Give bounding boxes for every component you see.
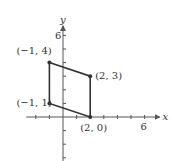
coordinate-plane: xy66 (−1, 4)(2, 3)(2, 0)(−1, 1) [0,0,171,161]
parallelogram-outline [49,63,90,117]
x-tick-label-6: 6 [141,121,147,132]
vertex-point [47,61,51,65]
vertex-label: (−1, 4) [16,45,51,56]
vertex-label: (2, 0) [80,122,107,133]
x-axis-label: x [163,111,169,122]
axes: xy66 [26,14,168,161]
y-axis-label: y [59,14,66,25]
vertex-label: (−1, 1) [16,97,51,108]
y-tick-label-6: 6 [55,30,61,41]
vertex-point [88,74,92,78]
vertex-label: (2, 3) [95,70,122,81]
parallelogram [47,61,92,119]
vertex-point [88,115,92,119]
vertex-labels: (−1, 4)(2, 3)(2, 0)(−1, 1) [16,45,122,133]
